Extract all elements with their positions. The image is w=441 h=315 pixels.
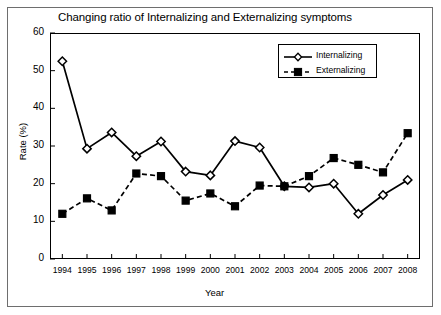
chart-figure: Changing ratio of Internalizing and Exte…: [0, 0, 441, 315]
data-point: [108, 207, 115, 214]
data-point: [355, 161, 362, 168]
legend-item-externalizing: Externalizing: [283, 62, 365, 77]
externalizing-line-marker-icon: [283, 64, 313, 76]
x-axis-ticks: [62, 254, 407, 259]
data-point: [59, 210, 66, 217]
data-point: [158, 173, 165, 180]
data-point: [403, 176, 411, 184]
data-point: [256, 182, 263, 189]
data-point: [207, 190, 214, 197]
data-point: [255, 143, 263, 151]
legend-label-internalizing: Internalizing: [316, 50, 362, 60]
chart-legend: Internalizing Externalizing: [278, 44, 377, 78]
data-point: [84, 195, 91, 202]
data-point: [380, 169, 387, 176]
internalizing-line-marker-icon: [283, 49, 313, 61]
data-point: [306, 173, 313, 180]
legend-label-externalizing: Externalizing: [316, 65, 365, 75]
legend-item-internalizing: Internalizing: [283, 47, 362, 62]
data-point: [305, 183, 313, 191]
data-point: [182, 197, 189, 204]
data-point: [58, 57, 66, 65]
data-point: [281, 183, 288, 190]
series-internalizing: [58, 57, 412, 218]
data-point: [232, 203, 239, 210]
y-axis-ticks: [50, 33, 55, 259]
data-point: [133, 170, 140, 177]
data-point: [330, 155, 337, 162]
data-point: [404, 130, 411, 137]
data-series-layer: [58, 57, 412, 218]
